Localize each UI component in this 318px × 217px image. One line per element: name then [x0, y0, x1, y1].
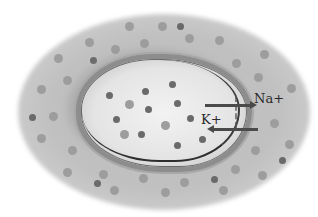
na-out-arrow-icon: [205, 104, 251, 107]
ion-particle: [99, 170, 108, 179]
ion-particle: [254, 73, 263, 82]
ion-particle: [138, 131, 145, 138]
ion-particle: [37, 134, 46, 143]
ion-channel: [235, 96, 239, 128]
ion-particle: [258, 171, 267, 180]
ion-particle: [232, 59, 241, 68]
ion-particle: [63, 76, 72, 85]
ion-particle: [174, 100, 181, 107]
ion-particle: [125, 100, 134, 109]
ion-particle: [260, 50, 269, 59]
ion-particle: [37, 85, 46, 94]
ion-particle: [113, 116, 120, 123]
ion-particle: [49, 112, 58, 121]
ion-particle: [145, 106, 152, 113]
ion-particle: [174, 142, 181, 149]
ion-particle: [85, 38, 94, 47]
potassium-label: K+: [201, 112, 222, 127]
ion-particle: [111, 45, 120, 54]
ion-particle: [180, 178, 189, 187]
ion-particle: [29, 114, 36, 121]
ion-particle: [219, 186, 228, 195]
sodium-label: Na+: [254, 91, 284, 106]
membrane-edge: [82, 60, 240, 162]
ion-particle: [285, 140, 294, 149]
ion-particle: [140, 39, 149, 48]
ion-particle: [142, 88, 149, 95]
ion-particle: [215, 36, 224, 45]
ion-particle: [279, 157, 286, 164]
ion-particle: [199, 136, 206, 143]
cell-diagram: Na+ K+: [0, 0, 318, 217]
ion-particle: [110, 186, 119, 195]
ion-particle: [106, 92, 113, 99]
ion-particle: [90, 57, 97, 64]
ion-particle: [68, 146, 77, 155]
ion-particle: [211, 176, 218, 183]
ion-particle: [187, 115, 194, 122]
ion-particle: [251, 146, 260, 155]
ion-particle: [287, 84, 296, 93]
ion-particle: [270, 119, 279, 128]
ion-particle: [63, 168, 72, 177]
ion-particle: [139, 174, 148, 183]
ion-particle: [177, 23, 184, 30]
ion-particle: [161, 188, 170, 197]
ion-particle: [120, 130, 129, 139]
k-in-arrow-icon: [213, 128, 258, 131]
ion-particle: [94, 180, 101, 187]
ion-particle: [169, 81, 176, 88]
ion-particle: [158, 22, 167, 31]
ion-particle: [161, 121, 170, 130]
ion-particle: [185, 34, 194, 43]
ion-particle: [231, 165, 240, 174]
ion-particle: [54, 54, 63, 63]
ion-particle: [125, 22, 134, 31]
